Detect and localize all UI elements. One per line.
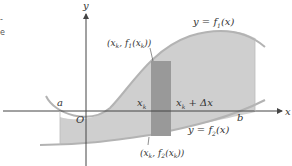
leader-line-upper xyxy=(150,48,153,61)
area-between-curves-diagram: y x O a b xk xk + Δx y = f1(x) y = f2(x)… xyxy=(0,0,292,166)
lower-point-label: (xk, f2(xk)) xyxy=(140,148,185,159)
origin-label: O xyxy=(76,114,84,125)
x-axis-label: x xyxy=(285,106,291,117)
upper-point-label: (xk, f1(xk)) xyxy=(107,38,152,49)
leader-line-lower xyxy=(148,137,149,145)
edge-fragment-2: e xyxy=(0,28,5,37)
bound-label-a: a xyxy=(57,97,63,108)
representative-strip xyxy=(151,61,171,136)
edge-fragment-1: - xyxy=(0,15,3,24)
bound-label-b: b xyxy=(237,112,243,123)
y-axis-label: y xyxy=(82,0,89,11)
upper-curve-label: y = f1(x) xyxy=(192,16,234,29)
lower-curve-label: y = f2(x) xyxy=(187,124,229,137)
